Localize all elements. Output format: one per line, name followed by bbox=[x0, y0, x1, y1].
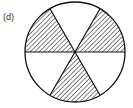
shaded-sector-upper-right bbox=[75, 9, 125, 52]
shaded-sector-upper-left bbox=[25, 9, 75, 52]
sectored-circle-diagram bbox=[0, 0, 133, 108]
shaded-sector-bottom bbox=[50, 52, 100, 102]
